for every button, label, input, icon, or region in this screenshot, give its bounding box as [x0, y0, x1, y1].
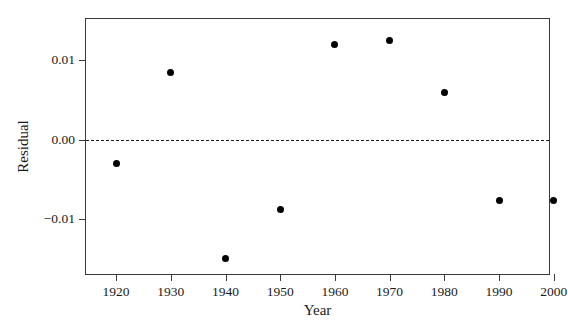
x-tick-mark	[171, 274, 172, 281]
x-axis-title: Year	[85, 303, 550, 318]
data-point	[386, 37, 393, 44]
x-tick-label: 1990	[486, 285, 513, 299]
x-tick-mark	[116, 274, 117, 281]
y-tick-label: 0.01	[51, 53, 75, 67]
x-tick-label: 1920	[103, 285, 130, 299]
x-tick-mark	[226, 274, 227, 281]
y-tick-mark	[79, 60, 86, 61]
residual-scatter-chart: 0.010.00−0.01 19201930194019501960197019…	[0, 0, 568, 330]
x-tick-mark	[444, 274, 445, 281]
data-point	[441, 89, 448, 96]
zero-reference-line	[86, 140, 549, 141]
data-point	[550, 197, 557, 204]
data-point	[167, 69, 174, 76]
x-tick-label: 1940	[212, 285, 239, 299]
x-tick-mark	[280, 274, 281, 281]
x-tick-label: 1980	[431, 285, 458, 299]
plot-area: 0.010.00−0.01 19201930194019501960197019…	[85, 18, 550, 275]
y-tick-label: −0.01	[44, 213, 75, 227]
y-axis-title: Residual	[12, 18, 34, 275]
data-point	[222, 255, 229, 262]
y-tick-label: 0.00	[51, 133, 75, 147]
data-point	[113, 160, 120, 167]
y-tick-mark	[79, 140, 86, 141]
x-tick-mark	[554, 274, 555, 281]
x-tick-label: 2000	[540, 285, 567, 299]
x-tick-label: 1950	[267, 285, 294, 299]
data-point	[496, 197, 503, 204]
x-tick-mark	[335, 274, 336, 281]
data-point	[277, 206, 284, 213]
y-tick-mark	[79, 219, 86, 220]
x-tick-label: 1930	[157, 285, 184, 299]
x-tick-mark	[390, 274, 391, 281]
x-tick-label: 1970	[376, 285, 403, 299]
data-point	[331, 41, 338, 48]
x-tick-label: 1960	[321, 285, 348, 299]
x-tick-mark	[499, 274, 500, 281]
